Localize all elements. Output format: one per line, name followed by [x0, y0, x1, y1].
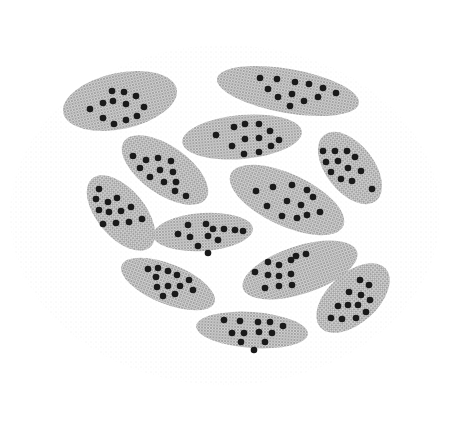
nucleus-dot: [252, 269, 259, 276]
nucleus-dot: [154, 284, 161, 291]
nucleus-dot: [172, 188, 179, 195]
nucleus-dot: [256, 121, 263, 128]
nucleus-dot: [353, 315, 360, 322]
nucleus-dot: [257, 75, 264, 82]
nucleus-dot: [256, 135, 263, 142]
nucleus-dot: [238, 339, 245, 346]
nucleus-dot: [123, 101, 130, 108]
nucleus-dot: [363, 309, 370, 316]
nucleus-dot: [335, 303, 342, 310]
nucleus-dot: [276, 137, 283, 144]
nucleus-dot: [298, 202, 305, 209]
nucleus-dot: [165, 268, 172, 275]
nucleus-dot: [143, 157, 150, 164]
nucleus-dot: [328, 169, 335, 176]
nucleus-dot: [93, 196, 100, 203]
nucleus-dot: [255, 319, 262, 326]
nucleus-dot: [265, 272, 272, 279]
nucleus-dot: [100, 221, 107, 228]
nucleus-dot: [100, 100, 107, 107]
nucleus-dot: [232, 227, 239, 234]
nucleus-dot: [352, 154, 359, 161]
nucleus-dot: [317, 209, 324, 216]
nucleus-dot: [320, 148, 327, 155]
nucleus-dot: [346, 289, 353, 296]
nucleus-dot: [289, 282, 296, 289]
nucleus-dot: [96, 207, 103, 214]
nucleus-dot: [355, 302, 362, 309]
nucleus-dot: [141, 104, 148, 111]
nucleus-dot: [344, 148, 351, 155]
nucleus-dot: [256, 329, 263, 336]
nucleus-dot: [215, 237, 222, 244]
nucleus-dot: [253, 188, 260, 195]
nucleus-dot: [274, 76, 281, 83]
nucleus-dot: [231, 124, 238, 131]
nucleus-dot: [100, 115, 107, 122]
nucleus-dot: [87, 106, 94, 113]
nucleus-dot: [205, 250, 212, 257]
nucleus-dot: [205, 233, 212, 240]
nucleus-dot: [276, 273, 283, 280]
nucleus-dot: [279, 213, 286, 220]
nucleus-dot: [114, 195, 121, 202]
nucleus-dot: [111, 121, 118, 128]
nucleus-dot: [174, 272, 181, 279]
nucleus-dot: [213, 132, 220, 139]
nucleus-dot: [96, 186, 103, 193]
nucleus-dot: [241, 330, 248, 337]
nucleus-dot: [237, 318, 244, 325]
nucleus-dot: [315, 94, 322, 101]
nucleus-dot: [275, 94, 282, 101]
nucleus-dot: [276, 283, 283, 290]
nucleus-dot: [147, 174, 154, 181]
nucleus-dot: [251, 347, 258, 354]
nucleus-dot: [320, 85, 327, 92]
nucleus-dot: [265, 86, 272, 93]
nucleus-dot: [345, 302, 352, 309]
nucleus-dot: [118, 208, 125, 215]
nucleus-dot: [173, 179, 180, 186]
nucleus-dot: [175, 231, 182, 238]
illustration-canvas: [0, 0, 450, 429]
nucleus-dot: [256, 149, 263, 156]
nucleus-dot: [265, 259, 272, 266]
nucleus-dot: [126, 219, 133, 226]
nucleus-dot: [292, 79, 299, 86]
nucleus-dot: [109, 88, 116, 95]
nucleus-dot: [165, 283, 172, 290]
nucleus-dot: [335, 158, 342, 165]
nucleus-dot: [241, 151, 248, 158]
nucleus-dot: [301, 98, 308, 105]
nucleus-dot: [183, 193, 190, 200]
nucleus-dot: [145, 266, 152, 273]
nucleus-dot: [153, 274, 160, 281]
nucleus-dot: [155, 155, 162, 162]
nucleus-dot: [242, 121, 249, 128]
nucleus-dot: [358, 292, 365, 299]
nucleus-dot: [195, 243, 202, 250]
nucleus-dot: [210, 226, 217, 233]
nucleus-dot: [264, 203, 271, 210]
nucleus-dot: [333, 90, 340, 97]
nucleus-dot: [262, 285, 269, 292]
nucleus-dot: [229, 143, 236, 150]
nucleus-dot: [284, 198, 291, 205]
nucleus-dot: [105, 199, 112, 206]
nucleus-dot: [160, 293, 167, 300]
nucleus-dot: [221, 317, 228, 324]
nucleus-dot: [203, 221, 210, 228]
nucleus-dot: [358, 168, 365, 175]
nucleus-dot: [310, 194, 317, 201]
nucleus-dot: [287, 103, 294, 110]
nucleus-dot: [328, 315, 335, 322]
nucleus-dot: [177, 283, 184, 290]
nucleus-dot: [267, 128, 274, 135]
nucleus-dot: [168, 158, 175, 165]
nucleus-dot: [338, 176, 345, 183]
nucleus-dot: [339, 316, 346, 323]
nucleus-dot: [357, 277, 364, 284]
nucleus-dot: [240, 228, 247, 235]
nucleus-dot: [155, 265, 162, 272]
nucleus-dot: [349, 178, 356, 185]
